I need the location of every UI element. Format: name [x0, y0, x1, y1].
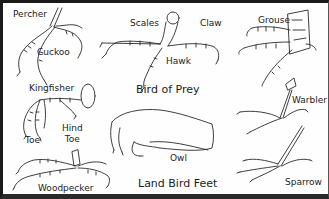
owl-foot-drawing	[111, 110, 214, 157]
label-toe: Toe	[25, 136, 40, 145]
label-hawk: Hawk	[166, 57, 191, 66]
label-grouse: Grouse	[258, 16, 290, 25]
label-hind-toe-line2: Toe	[62, 135, 83, 144]
bird-feet-illustration	[0, 0, 329, 199]
section-heading-bird-of-prey: Bird of Prey	[136, 84, 200, 95]
label-hind-toe: Hind Toe	[62, 124, 83, 144]
label-owl: Owl	[170, 154, 187, 163]
title-land-bird-feet: Land Bird Feet	[138, 178, 217, 189]
label-claw: Claw	[200, 19, 222, 28]
label-hind-toe-line1: Hind	[62, 124, 83, 133]
warbler-foot-drawing	[237, 78, 308, 134]
label-warbler: Warbler	[292, 96, 327, 105]
label-percher: Percher	[13, 10, 47, 19]
label-sparrow: Sparrow	[285, 178, 322, 187]
label-cuckoo: Cuckoo	[37, 48, 70, 57]
label-scales: Scales	[130, 19, 159, 28]
label-woodpecker: Woodpecker	[38, 184, 93, 193]
sparrow-foot-drawing	[237, 126, 312, 182]
label-kingfisher: Kingfisher	[29, 84, 74, 93]
